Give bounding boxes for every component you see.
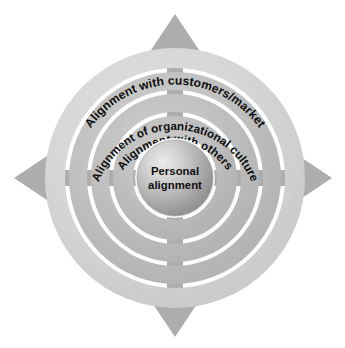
core-label-line1: Personal bbox=[151, 165, 199, 177]
core-label-line2: alignment bbox=[148, 179, 202, 191]
alignment-diagram: Alignment with customers/market Alignmen… bbox=[0, 0, 345, 348]
core-sphere: Personal alignment bbox=[135, 138, 215, 218]
core-sphere-body bbox=[137, 140, 213, 216]
alignment-diagram-canvas: Alignment with customers/market Alignmen… bbox=[0, 0, 345, 348]
